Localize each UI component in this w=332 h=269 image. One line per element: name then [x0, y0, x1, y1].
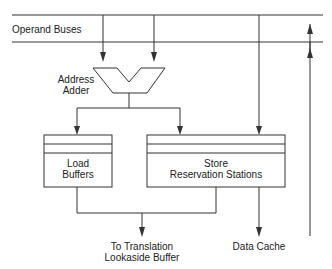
arrow-down-icon	[74, 126, 80, 135]
arrow-down-icon	[177, 126, 183, 135]
load-buffers-label-line2: Buffers	[44, 169, 112, 180]
address-adder-shape	[93, 68, 165, 93]
tlb-label-line1: To Translation	[92, 241, 192, 252]
address-adder-label-line1: Address	[56, 74, 96, 85]
diagram-canvas: Operand Buses Address Adder Load Buffers…	[0, 0, 332, 269]
load-buffers-label-line1: Load	[44, 158, 112, 169]
arrow-down-icon	[100, 52, 106, 62]
address-adder-label-line2: Adder	[56, 85, 96, 96]
arrow-down-icon	[256, 227, 262, 237]
store-label-line2: Reservation Stations	[147, 169, 285, 180]
arrow-up-icon	[307, 48, 313, 58]
diagram-lines	[0, 0, 332, 269]
arrow-down-icon	[139, 227, 145, 237]
arrow-down-icon	[151, 52, 157, 62]
tlb-label-line2: Lookaside Buffer	[92, 252, 192, 263]
operand-buses-label: Operand Buses	[12, 24, 82, 35]
arrow-up-icon	[307, 24, 313, 34]
store-label-line1: Store	[147, 158, 285, 169]
arrow-down-icon	[256, 126, 262, 135]
data-cache-label: Data Cache	[224, 241, 294, 252]
